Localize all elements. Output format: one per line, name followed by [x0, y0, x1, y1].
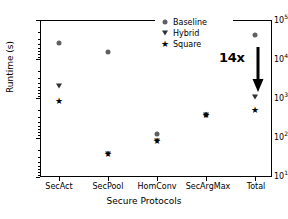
data-point-square-secact: ★ — [55, 99, 63, 104]
data-point-baseline-secpool — [106, 50, 111, 55]
legend: Baseline Hybrid ★ Square — [155, 15, 233, 52]
data-point-square-secpool: ★ — [104, 152, 112, 157]
x-tick-major — [206, 177, 207, 181]
legend-label-square: Square — [173, 40, 201, 49]
data-point-square-homconv: ★ — [153, 139, 161, 144]
x-tick-label-secargmax: SecArgMax — [186, 182, 231, 191]
legend-item-square: ★ Square — [157, 39, 231, 50]
legend-label-hybrid: Hybrid — [173, 29, 199, 38]
x-tick-major — [108, 177, 109, 181]
legend-item-baseline: Baseline — [157, 17, 231, 28]
data-point-square-total: ★ — [251, 108, 259, 113]
legend-circle-icon — [157, 17, 173, 28]
legend-triangle-down-icon — [157, 28, 173, 39]
x-tick-label-secpool: SecPool — [93, 182, 124, 191]
data-point-hybrid-secact — [56, 84, 62, 89]
x-tick-label-secact: SecAct — [45, 182, 72, 191]
annotation-down-arrow-icon — [252, 47, 264, 93]
legend-item-hybrid: Hybrid — [157, 28, 231, 39]
x-tick-label-homconv: HomConv — [138, 182, 177, 191]
x-tick-major — [255, 177, 256, 181]
y-tick-major — [36, 177, 40, 178]
x-tick-major — [157, 177, 158, 181]
y-axis-label: Runtime (s) — [5, 27, 15, 107]
x-tick-label-total: Total — [247, 182, 266, 191]
annotation-14x-label: 14x — [219, 50, 245, 65]
x-axis-label: Secure Protocols — [0, 196, 288, 206]
legend-label-baseline: Baseline — [173, 18, 207, 27]
x-tick-major — [59, 177, 60, 181]
legend-star-icon: ★ — [157, 39, 173, 50]
data-point-square-secargmax: ★ — [202, 113, 210, 118]
data-point-baseline-secact — [57, 41, 62, 46]
data-point-baseline-total — [253, 33, 258, 38]
data-point-hybrid-total — [252, 95, 258, 100]
figure-scatter-runtime: Runtime (s) 105 104 103 102 101 ★ ★ ★ — [0, 0, 288, 219]
